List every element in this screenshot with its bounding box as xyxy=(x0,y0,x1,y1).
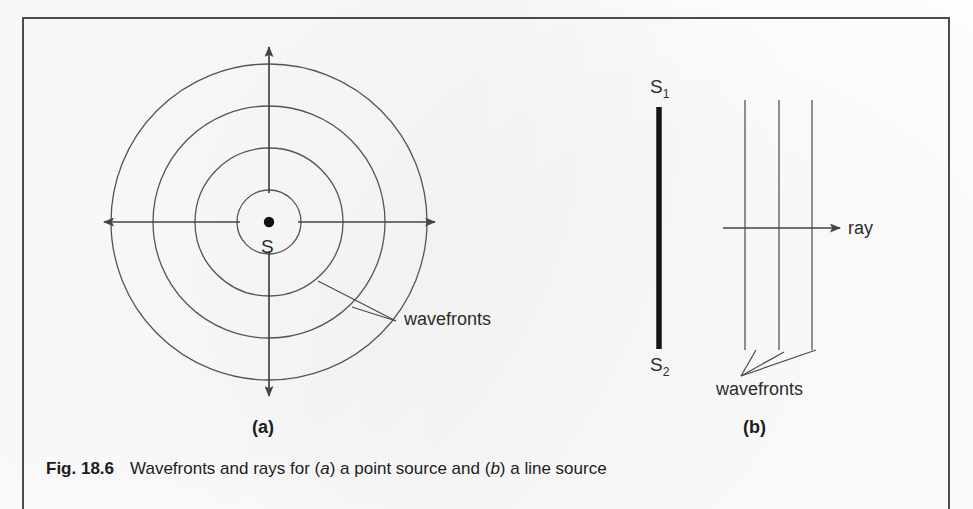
point-source-dot xyxy=(264,217,274,227)
figure-artwork: S wavefronts S1 S2 ray wavefronts (a) (b… xyxy=(0,0,973,509)
panel-b-wavefront-leader-lines xyxy=(741,350,816,376)
figure-18-6: S wavefronts S1 S2 ray wavefronts (a) (b… xyxy=(0,0,973,509)
panel-a-wavefronts-label: wavefronts xyxy=(404,310,491,328)
leader-line-a-1 xyxy=(318,281,396,321)
caption-b-italic: b xyxy=(490,459,499,478)
panel-b-diagram xyxy=(659,100,840,376)
caption-a-italic: a xyxy=(320,459,329,478)
line-source-top-label: S1 xyxy=(650,77,669,100)
caption-tail: ) a line source xyxy=(500,459,607,478)
panel-b-wavefronts-label: wavefronts xyxy=(716,380,803,398)
panel-a-tag: (a) xyxy=(252,418,274,436)
panel-a-wavefront-leader-lines xyxy=(318,281,396,321)
figure-number: Fig. 18.6 xyxy=(46,459,114,478)
point-source-label: S xyxy=(261,237,274,256)
caption-lead: Wavefronts and rays for ( xyxy=(130,459,320,478)
leader-line-b-3 xyxy=(741,350,816,376)
line-source-bottom-subscript: 2 xyxy=(663,365,670,379)
caption-mid: ) a point source and ( xyxy=(330,459,491,478)
panel-b-tag: (b) xyxy=(743,418,766,436)
line-source-top-subscript: 1 xyxy=(663,87,670,101)
panel-a-diagram xyxy=(0,0,973,509)
panel-b-wavefront-lines xyxy=(745,100,812,350)
line-source-top-letter: S xyxy=(650,76,663,97)
ray-label: ray xyxy=(848,219,873,237)
line-source-bottom-letter: S xyxy=(650,354,663,375)
figure-caption: Fig. 18.6Wavefronts and rays for (a) a p… xyxy=(46,459,607,479)
line-source-bottom-label: S2 xyxy=(650,355,669,378)
